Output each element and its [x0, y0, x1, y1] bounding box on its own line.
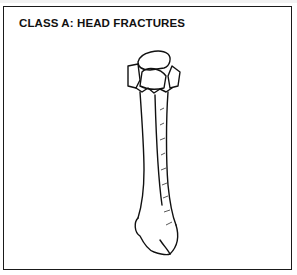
- shaft-inner-line: [155, 95, 162, 205]
- head-fragment-left: [128, 64, 140, 88]
- head-fragment-center: [140, 69, 166, 90]
- head-fragment-right: [168, 66, 180, 88]
- fractured-bone-illustration: [0, 0, 297, 275]
- head-fragment-top: [138, 51, 170, 70]
- distal-end: [135, 218, 177, 255]
- distal-condyle: [160, 240, 170, 254]
- shaft-right-edge: [167, 92, 177, 225]
- shaft-left-edge: [138, 92, 144, 218]
